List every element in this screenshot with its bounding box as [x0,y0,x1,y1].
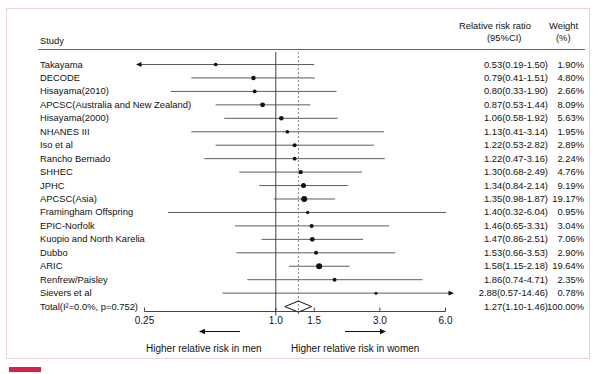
study-label: Takayama [40,60,83,70]
axis-tick-label: 0.25 [129,316,161,326]
study-label: Iso et al [40,140,73,150]
effect-value: 1.34(0.84-2.14) [455,181,548,191]
effect-value: 1.40(0.32-6.04) [455,207,548,217]
effect-value: 1.35(0.98-1.87) [455,194,548,204]
weight-value: 8.09% [540,100,584,110]
study-label: Framingham Offspring [40,207,133,217]
weight-value: 2.66% [540,86,584,96]
effect-value: 0.53(0.19-1.50) [455,60,548,70]
effect-value: 0.87(0.53-1.44) [455,100,548,110]
study-label: Renfrew/Paisley [40,275,108,285]
effect-value: 1.86(0.74-4.71) [455,275,548,285]
study-label: APCSC(Australia and New Zealand) [40,100,191,110]
weight-value: 2.90% [540,248,584,258]
study-label: Rancho Bernado [40,154,110,164]
effect-value: 1.53(0.66-3.53) [455,248,548,258]
study-label: Hisayama(2010) [40,86,109,96]
effect-value: 1.22(0.53-2.82) [455,140,548,150]
study-label: SHHEC [40,167,73,177]
study-label: APCSC(Asia) [40,194,97,204]
axis-tick-label: 1.0 [260,316,292,326]
weight-value: 3.04% [540,221,584,231]
weight-value: 1.90% [540,60,584,70]
axis-direction-label-women: Higher relative risk in women [291,344,419,354]
weight-value: 9.19% [540,181,584,191]
weight-value: 7.06% [540,234,584,244]
weight-value: 0.78% [540,288,584,298]
column-header-effect-line2: (95%CI) [487,33,521,43]
axis-direction-label-men: Higher relative risk in men [146,344,262,354]
column-header-study: Study [40,36,64,46]
weight-value: 4.80% [540,73,584,83]
axis-tick-label: 6.0 [430,316,462,326]
total-effect-value: 1.27(1.10-1.46) [455,302,548,312]
weight-value: 1.95% [540,127,584,137]
axis-tick-label: 3.0 [364,316,396,326]
weight-value: 19.64% [540,261,584,271]
effect-value: 1.46(0.65-3.31) [455,221,548,231]
study-label: JPHC [40,181,64,191]
weight-value: 2.35% [540,275,584,285]
total-label: Total(I²=0.0%, p=0.752) [40,302,138,312]
study-label: EPIC-Norfolk [40,221,95,231]
study-label: ARIC [40,261,62,271]
column-header-weight-line1: Weight [549,21,578,31]
effect-value: 1.22(0.47-3.16) [455,154,548,164]
study-label: Hisayama(2000) [40,113,109,123]
weight-value: 4.76% [540,167,584,177]
effect-value: 1.13(0.41-3.14) [455,127,548,137]
study-label: NHANES III [40,127,90,137]
effect-value: 1.58(1.15-2.18) [455,261,548,271]
total-weight-value: 100.00% [538,302,584,312]
study-label: Dubbo [40,248,68,258]
weight-value: 2.24% [540,154,584,164]
effect-value: 1.30(0.68-2.49) [455,167,548,177]
column-header-effect-line1: Relative risk ratio [459,21,531,31]
column-header-weight-line2: (%) [556,33,571,43]
effect-value: 2.88(0.57-14.46) [455,288,548,298]
study-label: Kuopio and North Karelia [40,234,145,244]
effect-value: 1.47(0.86-2.51) [455,234,548,244]
weight-value: 0.95% [540,207,584,217]
effect-value: 1.06(0.58-1.92) [455,113,548,123]
study-label: Sievers et al [40,288,92,298]
effect-value: 0.80(0.33-1.90) [455,86,548,96]
axis-tick-label: 1.5 [298,316,330,326]
weight-value: 19.17% [540,194,584,204]
study-label: DECODE [40,73,80,83]
weight-value: 5.63% [540,113,584,123]
effect-value: 0.79(0.41-1.51) [455,73,548,83]
weight-value: 2.89% [540,140,584,150]
accent-bar [9,367,41,372]
